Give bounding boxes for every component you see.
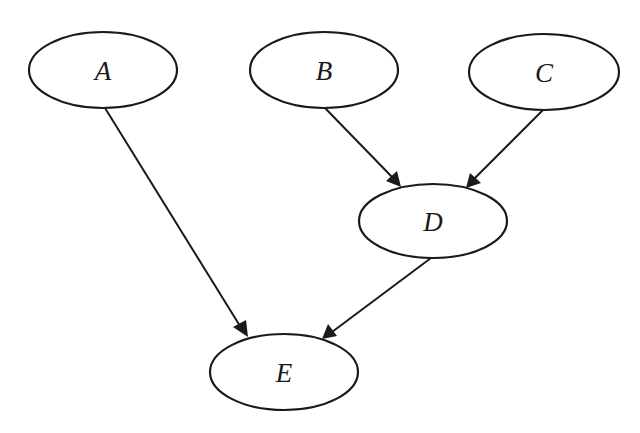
dag-diagram: A B C D E [0,0,640,433]
node-d-label: D [422,207,443,237]
node-e-label: E [275,358,293,388]
arrowhead-icon [322,324,337,339]
node-c: C [469,34,619,110]
node-b: B [250,32,398,108]
node-c-label: C [535,58,554,88]
edge-a-to-e [105,108,248,337]
node-d: D [359,184,507,258]
edge-c-to-d [466,110,543,188]
node-a-label: A [93,56,112,86]
node-e: E [210,334,358,410]
node-b-label: B [316,56,333,86]
node-a: A [29,32,177,108]
arrowhead-icon [233,320,248,337]
edge-d-to-e [322,258,431,339]
edge-b-to-d [325,108,401,187]
